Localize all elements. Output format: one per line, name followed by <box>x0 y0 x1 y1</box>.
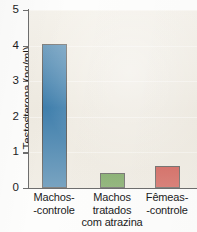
plot-area <box>28 10 197 188</box>
x-axis-label-line: -controle <box>124 204 197 217</box>
y-tick-mark <box>23 188 28 189</box>
y-tick-label: 1 <box>0 145 19 157</box>
y-tick-label: 2 <box>0 110 19 122</box>
y-tick-mark <box>23 10 28 11</box>
y-tick-mark <box>23 117 28 118</box>
y-tick-mark <box>23 81 28 82</box>
y-tick-mark <box>23 152 28 153</box>
x-axis-category-label: Fêmeas--controle <box>124 191 197 216</box>
y-axis-line <box>28 9 29 189</box>
bar <box>42 44 67 188</box>
x-axis-label-line: Fêmeas- <box>124 191 197 204</box>
bar-chart-figure: Testosterona (ng/ml) 012345 Machos--cont… <box>0 0 197 232</box>
y-tick-label: 3 <box>0 74 19 86</box>
x-axis-label-line: com atrazina <box>69 216 155 229</box>
y-tick-label: 4 <box>0 39 19 51</box>
bar <box>100 173 125 188</box>
y-tick-mark <box>23 46 28 47</box>
x-axis-line <box>26 188 197 189</box>
gridline <box>28 10 197 11</box>
bar <box>155 166 180 188</box>
y-tick-label: 5 <box>0 3 19 15</box>
